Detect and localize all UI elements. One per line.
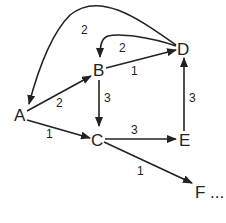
graph-diagram: 2 1 1 2 2 3 3 3 1 A B C D E F ...: [0, 0, 226, 223]
node-d: D: [177, 40, 189, 59]
node-e: E: [179, 131, 190, 150]
edge-b-d: [106, 50, 176, 68]
weight-c-e: 3: [131, 123, 138, 137]
edge-d-a: [29, 6, 176, 104]
weight-a-b: 2: [56, 96, 63, 110]
node-a: A: [14, 106, 26, 125]
weight-e-d: 3: [189, 91, 196, 105]
weight-b-d: 1: [131, 64, 138, 78]
edge-a-c: [27, 120, 90, 138]
weight-d-a: 2: [81, 23, 88, 37]
weight-c-f: 1: [137, 164, 144, 178]
weight-a-c: 1: [46, 127, 53, 141]
node-c: C: [91, 131, 103, 150]
weight-d-b: 2: [119, 41, 126, 55]
node-b: B: [93, 61, 104, 80]
weight-b-c: 3: [104, 91, 111, 105]
node-f: F ...: [195, 183, 224, 202]
